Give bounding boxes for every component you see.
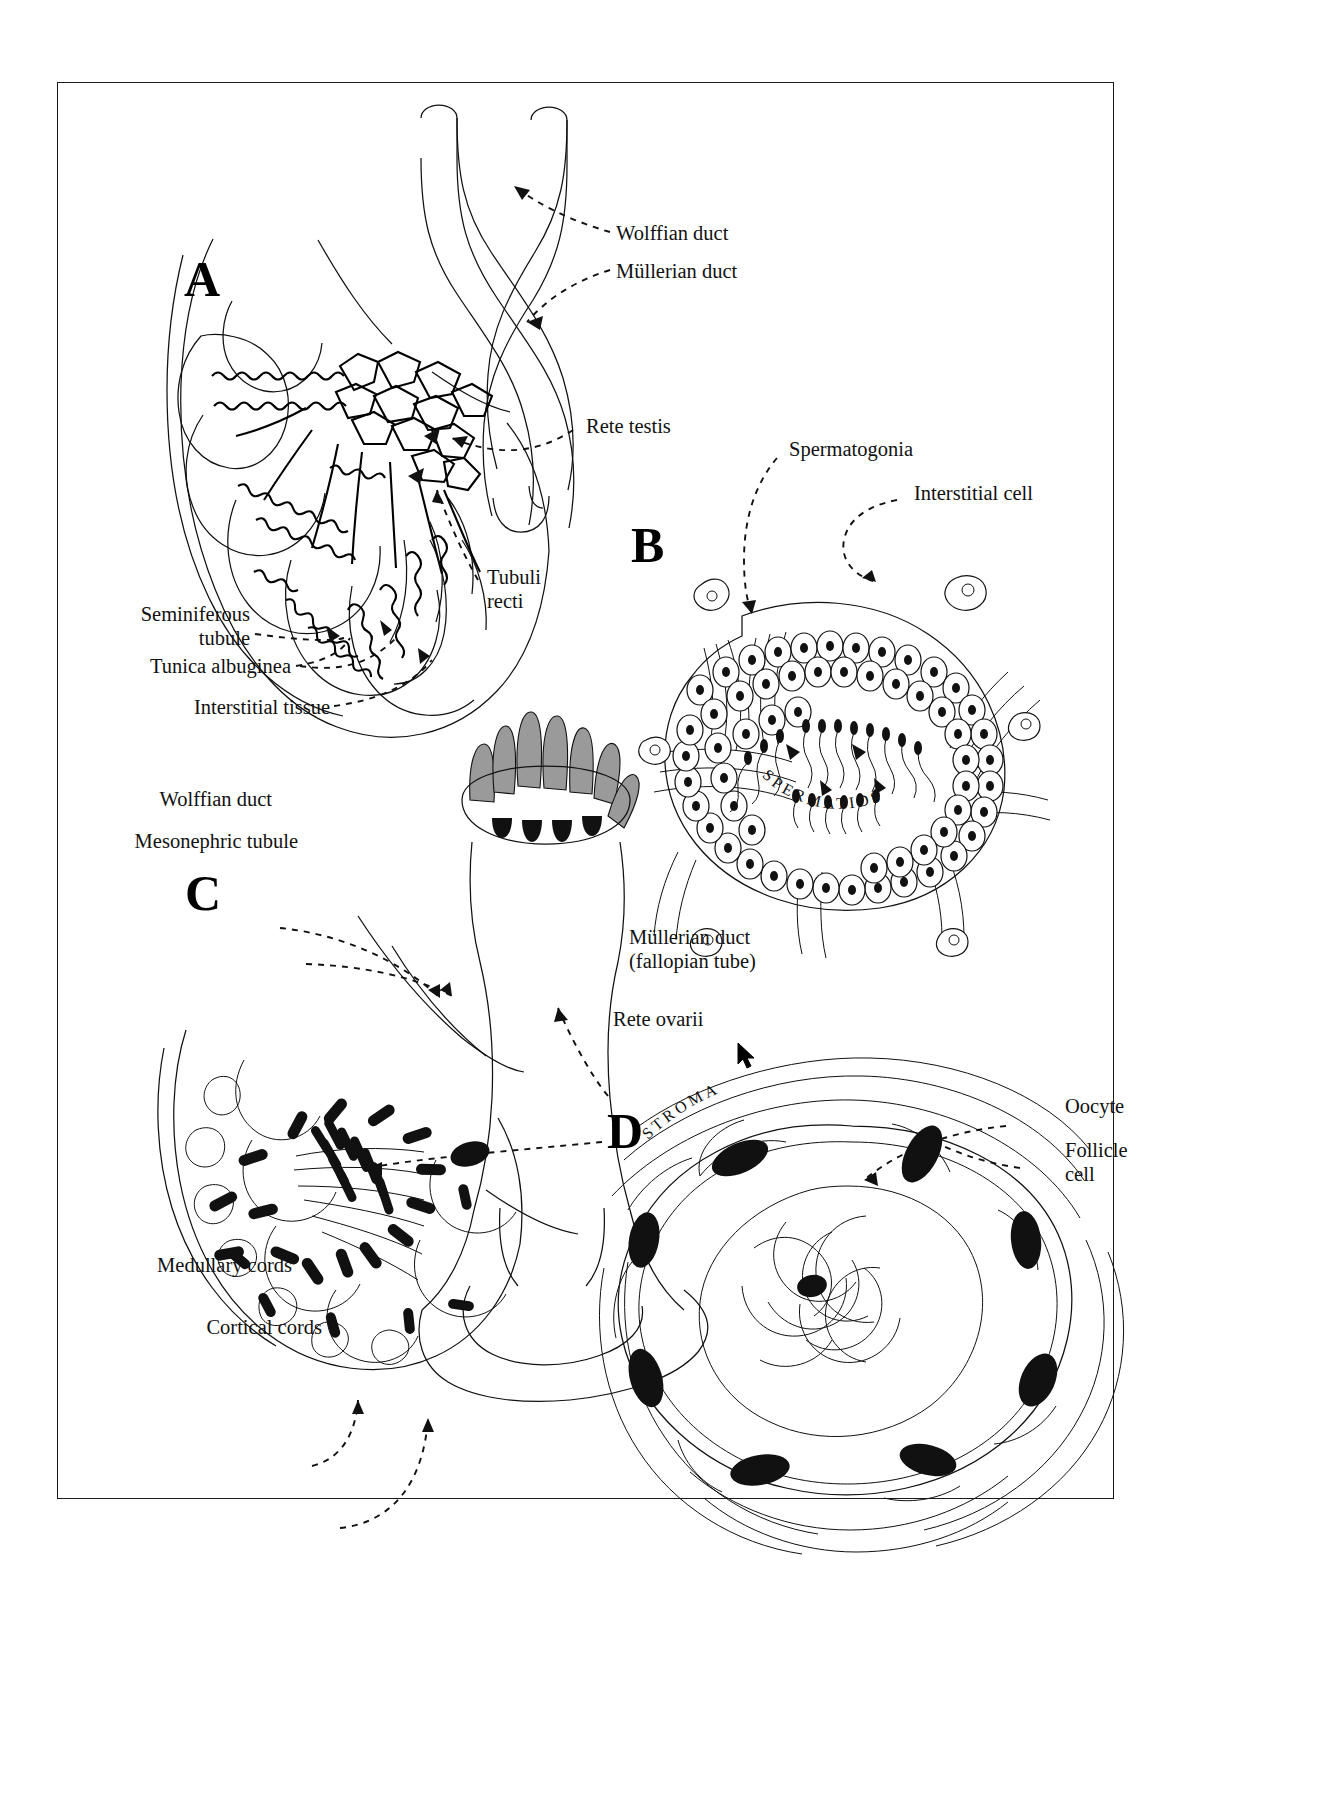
label-medullary-cords: Medullary cords [0, 1253, 292, 1277]
mullerian-duct-shape [483, 107, 567, 516]
label-rete-testis: Rete testis [586, 414, 671, 438]
label-mullerian-duct-a: Müllerian duct [616, 259, 737, 283]
label-interstitial-cell: Interstitial cell [914, 481, 1033, 505]
label-wolffian-duct-a: Wolffian duct [616, 221, 728, 245]
panel-letter-c: C [185, 864, 221, 922]
panel-c-illustration [158, 916, 602, 1528]
label-interstitial-tissue: Interstitial tissue [0, 695, 330, 719]
label-follicle-cell: Follicle cell [1065, 1138, 1128, 1186]
panel-b-illustration: SPERMATIDS [639, 458, 1050, 958]
panel-b-leaders [742, 458, 897, 614]
mesovarium [358, 916, 578, 1234]
figure-stage: SPERMATIDS [0, 0, 1343, 1816]
label-mesonephric-tubule: Mesonephric tubule [0, 829, 298, 853]
panel-d-illustration: STROMA [599, 1058, 1123, 1554]
label-wolffian-duct-c: Wolffian duct [0, 787, 272, 811]
stroma-curved-label: STROMA [638, 1079, 722, 1142]
label-tunica-albuginea: Tunica albuginea [0, 654, 291, 678]
panel-a-arrowheads [326, 428, 440, 664]
panel-letter-d: D [607, 1102, 643, 1160]
label-spermatogonia: Spermatogonia [789, 437, 913, 461]
rete-ovarii-strands [294, 1149, 424, 1280]
gonadal-cords [207, 1096, 474, 1339]
tube-lumen-slots [492, 816, 602, 842]
mediastinum-outline [318, 240, 510, 412]
panel-d-leaders [864, 1126, 1020, 1186]
label-mullerian-duct-fallopian: Müllerian duct (fallopian tube) [629, 925, 756, 973]
label-oocyte: Oocyte [1065, 1094, 1124, 1118]
label-tubuli-recti: Tubuli recti [487, 565, 541, 613]
follicle-boundary [618, 1125, 1071, 1495]
infundibulum-rim [462, 800, 630, 844]
mouse-pointer-icon [737, 1042, 759, 1072]
fimbriae [470, 712, 639, 828]
follicle-cells [622, 1119, 1065, 1490]
label-cortical-cords: Cortical cords [0, 1315, 322, 1339]
stroma-fibres [599, 1058, 1123, 1554]
follicle-cell-outlines [614, 1120, 1056, 1501]
panel-letter-a: A [184, 250, 220, 308]
label-rete-ovarii: Rete ovarii [613, 1007, 704, 1031]
germinal-epithelium-cells [673, 631, 1003, 905]
label-seminiferous-tubule: Seminiferous tubule [0, 602, 250, 650]
panel-letter-b: B [631, 516, 664, 574]
nucleolus [795, 1272, 829, 1300]
fallopian-tube-illustration [419, 712, 708, 1401]
middle-leaders [554, 1008, 608, 1096]
